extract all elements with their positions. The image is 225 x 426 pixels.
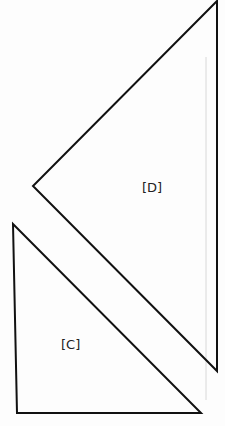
triangle-d-label: [D] xyxy=(142,180,162,195)
diagram-canvas: [D] [C] xyxy=(0,0,225,426)
canvas-background xyxy=(0,0,225,426)
triangle-c-label: [C] xyxy=(61,337,80,352)
